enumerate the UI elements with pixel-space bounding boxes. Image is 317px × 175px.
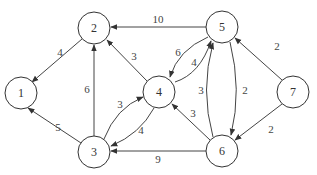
- edge-label-6-4: 3: [190, 107, 196, 119]
- edge-6-to-5: [207, 43, 214, 137]
- node-6: 6: [206, 135, 238, 167]
- edge-label-7-6: 2: [268, 123, 274, 135]
- node-label-2: 2: [91, 21, 97, 35]
- edge-label-4-2: 3: [131, 50, 137, 62]
- node-2: 2: [78, 12, 110, 44]
- edge-label-3-4: 3: [117, 98, 123, 110]
- node-7: 7: [277, 76, 309, 108]
- edge-label-5-2: 10: [153, 13, 165, 25]
- node-label-7: 7: [290, 85, 296, 99]
- graph-diagram: 4 10 3 6 5 3 4 6 4 3 2 3 9: [0, 0, 317, 175]
- edge-4-to-3: [111, 108, 154, 146]
- node-3: 3: [78, 136, 110, 168]
- edge-label-4-3: 4: [138, 124, 144, 136]
- edge-label-3-2: 6: [84, 83, 90, 95]
- node-5: 5: [206, 11, 238, 43]
- edge-7-to-6: [235, 104, 282, 140]
- edge-label-4-5: 4: [191, 56, 197, 68]
- edge-label-5-4: 6: [175, 46, 181, 58]
- edge-label-5-6: 2: [242, 84, 248, 96]
- edge-label-7-5: 2: [274, 40, 280, 52]
- edge-3-to-4: [104, 97, 143, 139]
- edge-label-6-5: 3: [198, 84, 204, 96]
- edge-4-to-2: [107, 40, 147, 81]
- node-1: 1: [5, 77, 37, 109]
- node-label-5: 5: [219, 20, 225, 34]
- edge-label-3-1: 5: [55, 121, 61, 133]
- node-label-6: 6: [219, 144, 225, 158]
- node-label-1: 1: [18, 86, 24, 100]
- node-label-4: 4: [156, 85, 162, 99]
- node-label-3: 3: [91, 145, 97, 159]
- edge-label-6-3: 9: [155, 153, 161, 165]
- edge-5-to-6: [230, 42, 236, 135]
- edge-label-2-1: 4: [57, 46, 63, 58]
- node-4: 4: [143, 76, 175, 108]
